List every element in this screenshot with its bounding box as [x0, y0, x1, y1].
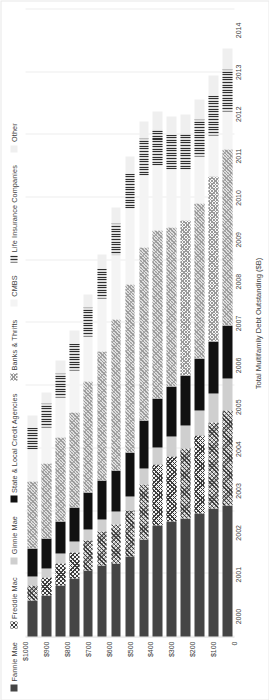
bar-segment[interactable]: [55, 521, 65, 553]
bar-segment[interactable]: [152, 111, 162, 129]
legend-item-state-local-credit-agencies[interactable]: State & Local Credit Agencies: [9, 393, 18, 502]
bar-segment[interactable]: [166, 169, 176, 227]
bar-segment[interactable]: [139, 420, 149, 468]
bar-segment[interactable]: [55, 397, 65, 437]
bar-segment[interactable]: [27, 427, 37, 449]
bar-segment[interactable]: [41, 403, 51, 426]
bar-segment[interactable]: [180, 518, 190, 636]
bar-segment[interactable]: [208, 422, 218, 509]
bar-segment[interactable]: [180, 220, 190, 374]
bar-segment[interactable]: [194, 119, 204, 157]
bar-segment[interactable]: [27, 576, 37, 585]
bar-segment[interactable]: [222, 111, 232, 149]
bar-segment[interactable]: [111, 470, 121, 511]
bar-segment[interactable]: [166, 116, 176, 134]
bar-segment[interactable]: [111, 524, 121, 563]
bar-segment[interactable]: [166, 436, 176, 456]
bar-segment[interactable]: [166, 521, 176, 636]
legend-item-cmbs[interactable]: CMBS: [9, 275, 18, 306]
bar-segment[interactable]: [139, 121, 149, 139]
bar-segment[interactable]: [97, 480, 107, 519]
bar-segment[interactable]: [208, 176, 218, 340]
bar-segment[interactable]: [166, 227, 176, 386]
bar-segment[interactable]: [41, 463, 51, 538]
bar-segment[interactable]: [69, 552, 79, 578]
bar-segment[interactable]: [55, 360, 65, 373]
bar-segment[interactable]: [97, 351, 107, 480]
bar-segment[interactable]: [139, 175, 149, 248]
bar-segment[interactable]: [194, 358, 204, 409]
bar-segment[interactable]: [166, 134, 176, 169]
bar-segment[interactable]: [97, 565, 107, 636]
bar-segment[interactable]: [111, 563, 121, 636]
bar-segment[interactable]: [97, 298, 107, 351]
bar-segment[interactable]: [222, 48, 232, 69]
bar-segment[interactable]: [208, 341, 218, 393]
bar-segment[interactable]: [139, 468, 149, 484]
bar-segment[interactable]: [125, 556, 135, 636]
bar-segment[interactable]: [83, 492, 93, 529]
bar-segment[interactable]: [222, 410, 232, 505]
bar-segment[interactable]: [194, 513, 204, 636]
bar-segment[interactable]: [83, 308, 93, 336]
bar-segment[interactable]: [97, 531, 107, 565]
bar-segment[interactable]: [208, 95, 218, 135]
bar-segment[interactable]: [208, 508, 218, 636]
bar-segment[interactable]: [180, 448, 190, 518]
bar-segment[interactable]: [55, 585, 65, 636]
bar-segment[interactable]: [125, 510, 135, 556]
bar-segment[interactable]: [152, 525, 162, 636]
bar-segment[interactable]: [111, 255, 121, 319]
bar-segment[interactable]: [97, 254, 107, 268]
bar-segment[interactable]: [166, 456, 176, 521]
bar-segment[interactable]: [125, 156, 135, 173]
bar-segment[interactable]: [83, 294, 93, 308]
bar-segment[interactable]: [97, 268, 107, 298]
bar-segment[interactable]: [55, 553, 65, 563]
bar-segment[interactable]: [69, 370, 79, 412]
bar-segment[interactable]: [139, 484, 149, 539]
bar-segment[interactable]: [97, 519, 107, 531]
bar-segment[interactable]: [41, 595, 51, 636]
bar-segment[interactable]: [139, 539, 149, 636]
bar-segment[interactable]: [125, 452, 135, 497]
bar-segment[interactable]: [139, 247, 149, 420]
bar-segment[interactable]: [83, 336, 93, 381]
bar-segment[interactable]: [180, 375, 190, 426]
bar-segment[interactable]: [180, 133, 190, 169]
bar-segment[interactable]: [69, 343, 79, 369]
bar-segment[interactable]: [152, 129, 162, 165]
bar-segment[interactable]: [194, 156, 204, 202]
bar-segment[interactable]: [152, 464, 162, 525]
bar-segment[interactable]: [194, 99, 204, 118]
legend-item-other[interactable]: Other: [9, 123, 18, 152]
legend-item-life-insurance-companies[interactable]: Life Insurance Companies: [9, 165, 18, 262]
bar-segment[interactable]: [69, 330, 79, 343]
bar-segment[interactable]: [111, 223, 121, 256]
bar-segment[interactable]: [69, 541, 79, 552]
bar-segment[interactable]: [194, 203, 204, 358]
bar-segment[interactable]: [27, 600, 37, 636]
bar-segment[interactable]: [27, 415, 37, 426]
bar-segment[interactable]: [41, 427, 51, 463]
bar-segment[interactable]: [125, 284, 135, 452]
bar-segment[interactable]: [111, 511, 121, 524]
legend-item-freddie-mac[interactable]: Freddie Mac: [9, 577, 18, 629]
bar-segment[interactable]: [111, 207, 121, 223]
bar-segment[interactable]: [69, 412, 79, 507]
bar-segment[interactable]: [180, 425, 190, 448]
bar-segment[interactable]: [222, 69, 232, 112]
bar-segment[interactable]: [180, 169, 190, 220]
bar-segment[interactable]: [41, 538, 51, 567]
bar-segment[interactable]: [83, 381, 93, 492]
bar-segment[interactable]: [83, 570, 93, 636]
bar-segment[interactable]: [69, 507, 79, 541]
bar-segment[interactable]: [55, 373, 65, 397]
bar-segment[interactable]: [83, 540, 93, 570]
bar-segment[interactable]: [111, 319, 121, 469]
bar-segment[interactable]: [166, 386, 176, 436]
bar-segment[interactable]: [222, 325, 232, 378]
bar-segment[interactable]: [222, 378, 232, 410]
bar-segment[interactable]: [27, 548, 37, 576]
bar-segment[interactable]: [152, 398, 162, 447]
